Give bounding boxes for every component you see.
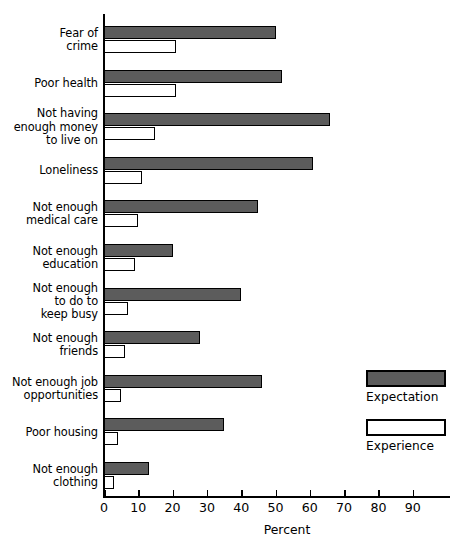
bar-group [104, 200, 450, 228]
category-label: Not enough to do to keep busy [0, 282, 98, 322]
bar-expectation [104, 331, 200, 344]
x-tick [207, 490, 209, 497]
x-tick-label: 90 [398, 500, 428, 515]
category-label: Fear of crime [0, 27, 98, 53]
bar-group [104, 113, 450, 141]
bar-group [104, 157, 450, 185]
bar-expectation [104, 288, 241, 301]
bar-experience [104, 258, 135, 271]
bar-experience [104, 40, 176, 53]
x-tick [173, 490, 175, 497]
bar-chart: Fear of crimePoor healthNot having enoug… [0, 0, 462, 549]
category-label: Not enough clothing [0, 463, 98, 489]
x-axis-title-text: Percent [264, 522, 311, 537]
x-tick-label: 80 [363, 500, 393, 515]
category-label: Not having enough money to live on [0, 107, 98, 147]
bar-group [104, 70, 450, 98]
x-tick [138, 490, 140, 497]
x-tick-label: 10 [123, 500, 153, 515]
bar-expectation [104, 70, 282, 83]
bar-experience [104, 345, 125, 358]
x-tick [344, 490, 346, 497]
category-label: Not enough medical care [0, 201, 98, 227]
bar-experience [104, 389, 121, 402]
bar-experience [104, 302, 128, 315]
category-label: Not enough education [0, 245, 98, 271]
x-tick-label: 40 [226, 500, 256, 515]
bar-expectation [104, 26, 276, 39]
bar-experience [104, 476, 114, 489]
bar-expectation [104, 113, 330, 126]
x-tick-label: 30 [192, 500, 222, 515]
category-label: Poor health [0, 77, 98, 90]
bar-group [104, 26, 450, 54]
category-label: Not enough job opportunities [0, 376, 98, 402]
bar-experience [104, 214, 138, 227]
bar-experience [104, 171, 142, 184]
bar-expectation [104, 462, 149, 475]
bar-experience [104, 127, 155, 140]
x-tick-label: 70 [329, 500, 359, 515]
legend-label: Experience [366, 438, 458, 454]
x-tick [413, 490, 415, 497]
category-label: Poor housing [0, 426, 98, 439]
bar-group [104, 288, 450, 316]
x-tick-label: 20 [158, 500, 188, 515]
bar-expectation [104, 244, 173, 257]
x-tick [241, 490, 243, 497]
bar-group [104, 244, 450, 272]
x-tick [378, 490, 380, 497]
bar-expectation [104, 200, 258, 213]
legend-swatch-experience [366, 419, 446, 436]
x-tick [104, 490, 106, 497]
category-axis-labels: Fear of crimePoor healthNot having enoug… [0, 14, 98, 496]
legend-label: Expectation [366, 389, 458, 405]
x-tick [310, 490, 312, 497]
legend-swatch-expectation [366, 370, 446, 387]
x-axis-title: Percent [0, 522, 462, 537]
category-label: Not enough friends [0, 332, 98, 358]
bar-expectation [104, 157, 313, 170]
bar-expectation [104, 375, 262, 388]
bar-experience [104, 432, 118, 445]
x-tick-label: 50 [261, 500, 291, 515]
x-tick-label: 60 [295, 500, 325, 515]
bar-expectation [104, 418, 224, 431]
category-label: Loneliness [0, 164, 98, 177]
x-tick-label: 0 [89, 500, 119, 515]
bar-group [104, 331, 450, 359]
bar-experience [104, 84, 176, 97]
x-tick [276, 490, 278, 497]
chart-legend: ExpectationExperience [366, 370, 458, 468]
